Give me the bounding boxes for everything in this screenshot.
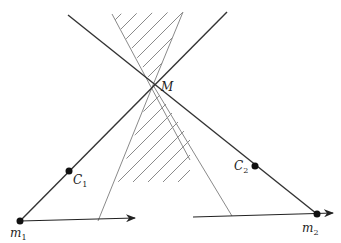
hatch-line	[125, 0, 225, 100]
geometry-diagram: M m1 m2 C1 C2	[0, 0, 341, 243]
hatch-line	[20, 0, 120, 100]
label-M: M	[160, 80, 174, 94]
label-m2: m2	[302, 221, 318, 237]
cone-line-lower-left	[98, 85, 153, 221]
hatch-region-upper	[20, 0, 300, 100]
hatch-region-lower	[20, 80, 325, 190]
hatch-line	[215, 80, 325, 190]
hatch-line	[110, 80, 220, 190]
hatch-line	[170, 80, 280, 190]
hatch-line	[185, 80, 295, 190]
hatch-line	[95, 0, 195, 100]
point-C1	[66, 168, 73, 175]
line-m2-through-M	[68, 15, 317, 214]
hatch-line	[110, 0, 210, 100]
hatch-line	[185, 0, 285, 100]
point-m1	[17, 218, 24, 225]
hatch-line	[50, 0, 150, 100]
point-m2	[314, 211, 321, 218]
hatch-line	[200, 80, 310, 190]
velocity-arrow-m1	[20, 218, 135, 221]
velocity-arrow-m2	[193, 213, 333, 217]
hatch-line	[95, 80, 205, 190]
point-C2	[252, 163, 259, 170]
label-m1: m1	[10, 226, 26, 242]
hatch-line	[80, 80, 190, 190]
hatch-line	[35, 80, 145, 190]
hatch-line	[200, 0, 300, 100]
label-C1: C1	[73, 173, 87, 189]
hatch-line	[155, 80, 265, 190]
cone-line-upper-left	[112, 14, 190, 160]
label-C2: C2	[234, 159, 248, 175]
hatch-line	[170, 0, 270, 100]
hatch-line	[35, 0, 135, 100]
